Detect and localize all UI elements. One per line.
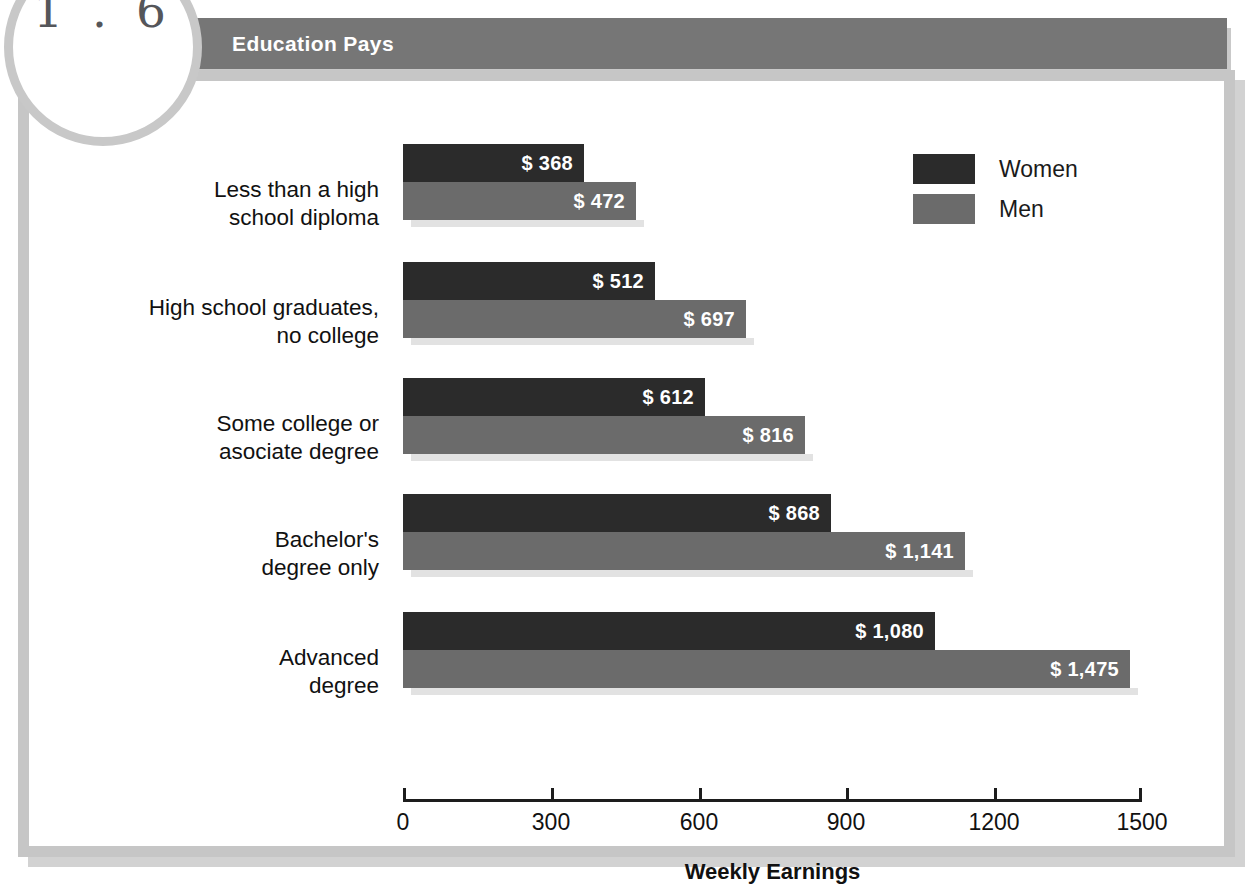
axis-tick <box>699 788 702 800</box>
x-axis-line <box>403 799 1142 802</box>
axis-tick-label: 1200 <box>968 809 1019 836</box>
legend-item-women: Women <box>913 149 1078 189</box>
bar-women: $ 1,080 <box>403 612 935 650</box>
bar-men: $ 697 <box>403 300 746 338</box>
chart-legend: WomenMen <box>913 149 1078 229</box>
bar-value-label: $ 1,141 <box>885 540 954 563</box>
bar-value-label: $ 816 <box>742 424 794 447</box>
bar-shadow <box>411 338 754 345</box>
bars-container: $ 1,080$ 1,475 <box>403 612 1130 688</box>
category-label: Less than a highschool diploma <box>39 176 379 232</box>
category-label: Bachelor'sdegree only <box>39 526 379 582</box>
bar-shadow <box>411 454 813 461</box>
category-label: High school graduates,no college <box>39 294 379 350</box>
bar-value-label: $ 1,080 <box>855 620 924 643</box>
figure-frame: WomenMen Less than a highschool diploma$… <box>18 70 1235 857</box>
bar-women: $ 368 <box>403 144 584 182</box>
bar-value-label: $ 612 <box>642 386 694 409</box>
category-label-line: degree only <box>39 554 379 582</box>
axis-tick <box>846 788 849 800</box>
x-axis-title: Weekly Earnings <box>403 859 1142 885</box>
category-label: Advanceddegree <box>39 644 379 700</box>
bar-value-label: $ 868 <box>768 502 820 525</box>
bar-shadow <box>411 688 1138 695</box>
axis-tick-label: 600 <box>680 809 718 836</box>
axis-tick-label: 300 <box>532 809 570 836</box>
axis-tick <box>994 788 997 800</box>
bar-value-label: $ 472 <box>573 190 625 213</box>
axis-tick-label: 900 <box>827 809 865 836</box>
chart-plot-area: WomenMen Less than a highschool diploma$… <box>29 81 1246 868</box>
category-label-line: High school graduates, <box>39 294 379 322</box>
bars-container: $ 868$ 1,141 <box>403 494 965 570</box>
axis-tick <box>1139 788 1142 800</box>
figure-title: Education Pays <box>232 32 394 56</box>
bar-men: $ 472 <box>403 182 636 220</box>
figure-number-label: 1 . 6 <box>27 0 179 38</box>
category-label-line: school diploma <box>39 204 379 232</box>
bar-women: $ 512 <box>403 262 655 300</box>
category-label-line: Some college or <box>39 410 379 438</box>
category-label-line: Bachelor's <box>39 526 379 554</box>
bars-container: $ 368$ 472 <box>403 144 636 220</box>
bars-container: $ 612$ 816 <box>403 378 805 454</box>
bar-shadow <box>411 220 644 227</box>
bar-value-label: $ 368 <box>521 152 573 175</box>
axis-tick-label: 1500 <box>1116 809 1167 836</box>
axis-tick <box>403 788 406 800</box>
bar-men: $ 816 <box>403 416 805 454</box>
category-label-line: Less than a high <box>39 176 379 204</box>
category-label-line: no college <box>39 322 379 350</box>
category-label-line: degree <box>39 672 379 700</box>
legend-swatch-men <box>913 194 975 224</box>
axis-tick <box>551 788 554 800</box>
bar-value-label: $ 512 <box>592 270 644 293</box>
category-label: Some college orasociate degree <box>39 410 379 466</box>
bar-men: $ 1,141 <box>403 532 965 570</box>
bar-value-label: $ 697 <box>683 308 735 331</box>
axis-tick-label: 0 <box>397 809 410 836</box>
legend-label-men: Men <box>999 196 1044 223</box>
bar-value-label: $ 1,475 <box>1050 658 1119 681</box>
bars-container: $ 512$ 697 <box>403 262 746 338</box>
bar-shadow <box>411 570 973 577</box>
category-label-line: asociate degree <box>39 438 379 466</box>
bar-men: $ 1,475 <box>403 650 1130 688</box>
legend-label-women: Women <box>999 156 1078 183</box>
legend-item-men: Men <box>913 189 1078 229</box>
bar-women: $ 868 <box>403 494 831 532</box>
bar-women: $ 612 <box>403 378 705 416</box>
category-label-line: Advanced <box>39 644 379 672</box>
legend-swatch-women <box>913 154 975 184</box>
title-banner: Education Pays <box>170 18 1227 69</box>
